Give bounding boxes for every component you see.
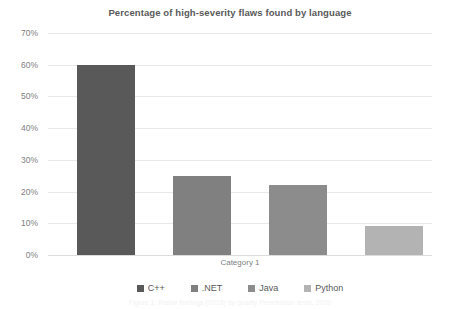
legend-item-python[interactable]: Python xyxy=(304,283,343,293)
y-axis-tick-label: 30% xyxy=(21,155,38,165)
y-axis-tick-label: 10% xyxy=(21,218,38,228)
bar-c[interactable] xyxy=(77,65,135,255)
legend-item-c[interactable]: C++ xyxy=(137,283,165,293)
legend-label: C++ xyxy=(148,283,165,293)
axis-baseline xyxy=(48,255,432,256)
legend-label: Java xyxy=(259,283,278,293)
chart-legend: C++.NETJavaPython xyxy=(48,283,432,293)
legend-item-net[interactable]: .NET xyxy=(191,283,223,293)
legend-swatch-icon xyxy=(137,285,144,292)
bar-java[interactable] xyxy=(269,185,327,255)
y-axis-tick-label: 40% xyxy=(21,123,38,133)
y-axis-tick-label: 20% xyxy=(21,187,38,197)
y-axis-tick-label: 50% xyxy=(21,91,38,101)
legend-label: .NET xyxy=(202,283,223,293)
y-axis-tick-label: 0% xyxy=(26,250,38,260)
legend-item-java[interactable]: Java xyxy=(248,283,278,293)
chart-container: Percentage of high-severity flaws found … xyxy=(0,0,460,309)
chart-title: Percentage of high-severity flaws found … xyxy=(0,7,460,18)
legend-swatch-icon xyxy=(248,285,255,292)
legend-label: Python xyxy=(315,283,343,293)
legend-swatch-icon xyxy=(304,285,311,292)
y-axis-tick-label: 60% xyxy=(21,60,38,70)
bar-python[interactable] xyxy=(365,226,423,255)
y-axis-tick-label: 70% xyxy=(21,28,38,38)
legend-swatch-icon xyxy=(191,285,198,292)
x-axis-label: Category 1 xyxy=(48,258,432,267)
gridline xyxy=(48,33,432,34)
figure-caption: Figure 1: Radar findings (2018) by quali… xyxy=(0,299,460,309)
bar-net[interactable] xyxy=(173,176,231,255)
plot-area xyxy=(48,33,432,255)
y-axis: 0%10%20%30%40%50%60%70% xyxy=(0,33,44,255)
